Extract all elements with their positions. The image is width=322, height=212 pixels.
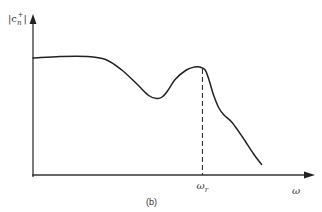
- chart: |cn+| ω ωr (b): [0, 0, 322, 212]
- series-line-0: [33, 56, 262, 164]
- figure-caption: (b): [146, 197, 157, 207]
- x-axis-arrow-icon: [304, 172, 315, 179]
- x-axis-label: ω: [292, 185, 300, 196]
- x-tick-label: ωr: [196, 180, 208, 194]
- y-axis-label: |cn+|: [8, 11, 27, 27]
- y-axis-arrow-icon: [30, 14, 37, 24]
